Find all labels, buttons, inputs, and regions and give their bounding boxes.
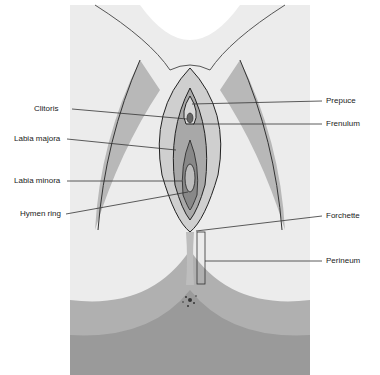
label-frenulum: Frenulum xyxy=(326,119,360,129)
label-perineum: Perineum xyxy=(326,256,360,266)
clitoris xyxy=(187,113,193,123)
label-forchette: Forchette xyxy=(326,211,360,221)
anatomy-illustration xyxy=(0,0,380,375)
hymen-ring xyxy=(185,164,195,192)
label-labia-majora: Labia majora xyxy=(14,134,60,144)
label-prepuce: Prepuce xyxy=(326,96,356,106)
label-hymen-ring: Hymen ring xyxy=(20,209,61,219)
label-labia-minora: Labia minora xyxy=(14,176,60,186)
label-clitoris: Clitoris xyxy=(34,104,58,114)
